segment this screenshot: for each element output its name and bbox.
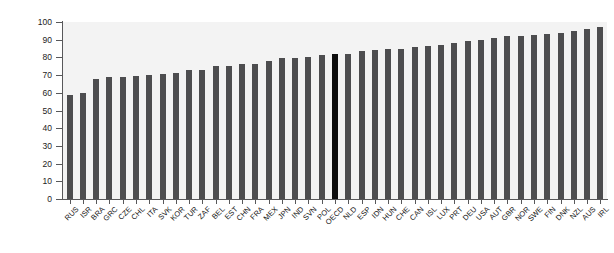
bar-aut [491, 38, 497, 199]
bar-jpn [279, 58, 285, 199]
bar-ind [292, 58, 298, 199]
bar-aus [584, 29, 590, 199]
x-axis-tick [216, 200, 217, 204]
y-axis-label: 40 [0, 124, 52, 133]
bar-oecd [332, 54, 338, 199]
bar-hun [385, 49, 391, 199]
bar-chl [133, 76, 139, 199]
bar-che [398, 49, 404, 199]
bar-bra [93, 79, 99, 199]
y-axis-tick [56, 93, 62, 94]
y-axis-label: 100 [0, 18, 52, 27]
y-axis-tick [56, 22, 62, 23]
bar-nor [518, 36, 524, 199]
y-axis-line [62, 21, 63, 200]
y-axis-tick [56, 199, 62, 200]
bar-esp [359, 51, 365, 199]
y-axis-label: 30 [0, 142, 52, 151]
bar-dnk [558, 33, 564, 199]
y-axis-label: 50 [0, 107, 52, 116]
bar-mex [266, 61, 272, 199]
y-axis-label: 70 [0, 71, 52, 80]
bar-rus [67, 95, 73, 199]
bar-can [412, 47, 418, 199]
x-axis-tick [176, 200, 177, 204]
bar-svn [305, 57, 311, 199]
y-axis-tick [56, 128, 62, 129]
y-axis-tick [56, 111, 62, 112]
bar-bel [213, 66, 219, 199]
bar-cze [120, 77, 126, 199]
bar-lux [438, 45, 444, 199]
bar-irl [597, 27, 603, 199]
bar-svk [160, 74, 166, 199]
y-axis-tick [56, 57, 62, 58]
bar-kor [173, 73, 179, 199]
x-axis-tick [322, 200, 323, 204]
y-axis-label: 0 [0, 195, 52, 204]
y-axis-tick [56, 146, 62, 147]
bar-gbr [504, 36, 510, 199]
y-axis-label: 10 [0, 177, 52, 186]
bar-ita [146, 75, 152, 199]
bar-fin [544, 34, 550, 199]
bar-zaf [199, 70, 205, 199]
bar-chart-figure: 0102030405060708090100 RUSISRBRAGRCCZECH… [0, 0, 614, 253]
bar-nzl [571, 31, 577, 199]
bar-tur [186, 70, 192, 199]
bar-chn [239, 64, 245, 199]
y-axis-tick [56, 181, 62, 182]
x-axis-tick [415, 200, 416, 204]
bar-idn [372, 50, 378, 199]
y-axis-label: 20 [0, 160, 52, 169]
x-axis-tick [468, 200, 469, 204]
bar-pol [319, 55, 325, 199]
x-axis-tick [362, 200, 363, 204]
x-axis-tick [561, 200, 562, 204]
bar-prt [451, 43, 457, 199]
bar-isr [80, 93, 86, 199]
bar-est [226, 66, 232, 199]
y-axis-tick [56, 75, 62, 76]
bar-grc [106, 77, 112, 199]
y-axis-label: 90 [0, 36, 52, 45]
x-axis-tick [70, 200, 71, 204]
bar-isl [425, 46, 431, 199]
y-axis-tick [56, 40, 62, 41]
y-axis-label: 60 [0, 89, 52, 98]
bar-deu [465, 41, 471, 199]
x-axis-tick [521, 200, 522, 204]
bar-usa [478, 40, 484, 199]
bar-nld [345, 54, 351, 199]
x-axis-tick [123, 200, 124, 204]
y-axis-label: 80 [0, 53, 52, 62]
chart-title [0, 0, 614, 5]
x-axis-tick [269, 200, 270, 204]
bar-swe [531, 35, 537, 199]
x-axis-tick [163, 200, 164, 204]
bar-fra [252, 64, 258, 199]
y-axis-tick [56, 164, 62, 165]
